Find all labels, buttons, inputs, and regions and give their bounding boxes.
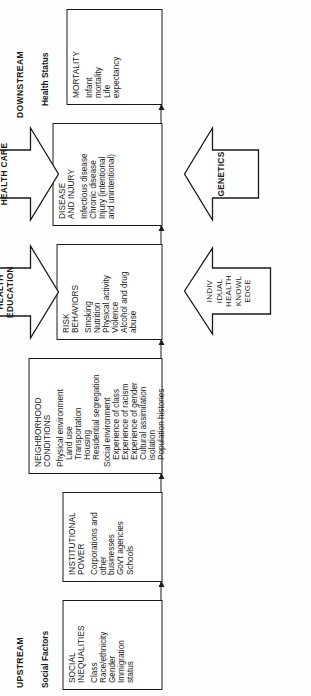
block-arrow-genetics[interactable]: GENETICS: [172, 126, 250, 222]
stage-sublabel-health-status: Health Status: [39, 52, 49, 106]
list-item: Experience of class: [112, 365, 121, 467]
connector-risk-to-disease: [160, 226, 161, 244]
block-arrow-label: HEALTH CARE: [0, 141, 8, 208]
list-item: Gov't agencies: [116, 499, 125, 575]
block-arrow-individual-health-knowledge[interactable]: INDIV IDUAL HEALTH KNOWL EDGE: [172, 246, 262, 336]
block-arrow-label: HEALTH EDUCATION: [0, 264, 14, 320]
block-arrow-label: INDIV IDUAL HEALTH KNOWL EDGE: [204, 273, 252, 309]
stage-label-downstream: DOWNSTREAM: [14, 51, 24, 118]
block-arrow-health-care[interactable]: HEALTH CARE: [0, 126, 50, 222]
node-items: Infectious disease Chronic disease Injur…: [80, 130, 116, 219]
list-item: Infant mortality: [85, 16, 103, 98]
list-item: Transportation: [74, 365, 83, 467]
node-items: Infant mortality Life expectancy: [85, 16, 121, 98]
list-item: Land use: [65, 365, 74, 467]
list-item: Experience of racism: [121, 365, 130, 467]
list-item: Race/ethnicity: [99, 607, 108, 683]
node-items: Physical environment Land use Transporta…: [56, 365, 167, 467]
list-item: Housing: [83, 365, 92, 467]
connector-disease-to-mortality: [160, 105, 161, 123]
block-arrow-health-education[interactable]: HEALTH EDUCATION: [0, 244, 50, 340]
connector-social-to-institutional: [160, 582, 161, 600]
list-item: Corporations and other businesses: [90, 499, 117, 575]
list-item: Injury (intentional and unintentional): [98, 130, 116, 219]
list-item: Physical environment: [56, 365, 65, 467]
list-item: Schools: [126, 499, 135, 575]
node-header: NEIGHBORHOOD CONDITIONS: [34, 365, 52, 467]
node-items: Class Race/ethnicity Gender Immigration …: [90, 607, 135, 683]
list-item: Immigration status: [117, 607, 135, 683]
list-item: Population histories: [157, 365, 166, 467]
node-header: INSTITUTIONAL POWER: [68, 499, 86, 575]
list-item: Infectious disease: [80, 130, 89, 219]
node-risk-behaviors[interactable]: RISK BEHAVIORS Smoking Nutrition Physica…: [56, 244, 162, 340]
node-social-inequalities[interactable]: SOCIAL INEQUALITIES Class Race/ethnicity…: [62, 600, 162, 690]
list-item: Violence: [111, 251, 120, 333]
node-header: MORTALITY: [72, 16, 81, 98]
list-item: Life expectancy: [103, 16, 121, 98]
node-header: SOCIAL INEQUALITIES: [68, 607, 86, 683]
connector-neighborhood-to-risk: [160, 340, 161, 358]
figure-canvas: UPSTREAM Social Factors DOWNSTREAM Healt…: [0, 0, 311, 696]
node-neighborhood-conditions[interactable]: NEIGHBORHOOD CONDITIONS Physical environ…: [28, 358, 162, 474]
list-item: Experience of gender: [130, 365, 139, 467]
list-item: Gender: [108, 607, 117, 683]
arrow-shape-icon: [172, 126, 250, 222]
node-items: Smoking Nutrition Physical activity Viol…: [84, 251, 138, 333]
node-items: Corporations and other businesses Gov't …: [90, 499, 135, 575]
list-item: Alcohol and drug abuse: [120, 251, 138, 333]
list-item: Physical activity: [102, 251, 111, 333]
stage-label-upstream: UPSTREAM: [14, 637, 24, 688]
list-item: Social environment: [103, 365, 112, 467]
list-item: Chronic disease: [89, 130, 98, 219]
block-arrow-label: GENETICS: [215, 149, 225, 198]
node-institutional-power[interactable]: INSTITUTIONAL POWER Corporations and oth…: [62, 492, 162, 582]
node-mortality[interactable]: MORTALITY Infant mortality Life expectan…: [66, 9, 162, 105]
list-item: Class: [90, 607, 99, 683]
list-item: Residential segregation: [92, 365, 101, 467]
connector-institutional-to-neighborhood: [160, 474, 161, 492]
stage-sublabel-social-factors: Social Factors: [39, 631, 49, 688]
list-item: Nutrition: [93, 251, 102, 333]
list-item: Smoking: [84, 251, 93, 333]
list-item: Cultural assimilation isolation: [139, 365, 157, 467]
